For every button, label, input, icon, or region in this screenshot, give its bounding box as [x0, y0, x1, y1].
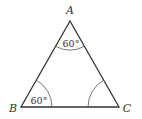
triangle-diagram: A B C 60° 60°: [0, 0, 142, 119]
angle-label-b: 60°: [31, 95, 48, 106]
vertex-label-a: A: [65, 4, 74, 17]
angle-label-a: 60°: [63, 38, 80, 49]
vertex-label-b: B: [8, 102, 17, 115]
vertex-label-c: C: [123, 102, 132, 115]
angle-arc-c: [88, 80, 104, 107]
